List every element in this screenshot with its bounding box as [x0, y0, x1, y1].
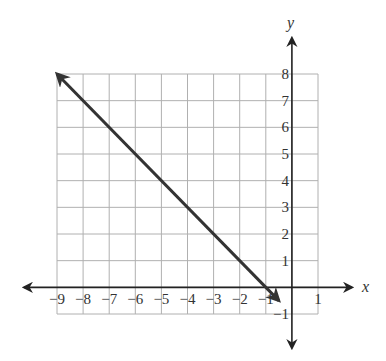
- x-tick-label: −9: [49, 291, 65, 307]
- x-tick-label: −2: [232, 291, 248, 307]
- grid: [57, 74, 318, 314]
- x-tick-label: 1: [314, 291, 322, 307]
- data-line: [57, 74, 279, 301]
- x-tick-label: −5: [153, 291, 169, 307]
- y-tick-label: 6: [281, 119, 289, 135]
- y-tick-label: 1: [281, 253, 289, 269]
- y-axis-label: y: [285, 14, 295, 32]
- y-tick-label: −1: [273, 306, 289, 322]
- y-tick-label: 7: [281, 93, 289, 109]
- x-tick-label: −8: [75, 291, 91, 307]
- x-tick-label: −4: [180, 291, 196, 307]
- y-tick-label: 8: [281, 66, 289, 82]
- y-tick-label: 4: [281, 173, 289, 189]
- x-tick-label: −6: [127, 291, 143, 307]
- coordinate-plane: −9−8−7−6−5−4−3−2−11−112345678 x y: [0, 0, 386, 361]
- y-tick-label: 3: [281, 199, 289, 215]
- tick-labels: −9−8−7−6−5−4−3−2−11−112345678: [49, 66, 322, 322]
- x-axis-label: x: [361, 278, 369, 295]
- x-tick-label: −3: [206, 291, 222, 307]
- y-tick-label: 2: [281, 226, 289, 242]
- series-line: [57, 74, 279, 301]
- x-tick-label: −7: [101, 291, 117, 307]
- y-tick-label: 5: [281, 146, 289, 162]
